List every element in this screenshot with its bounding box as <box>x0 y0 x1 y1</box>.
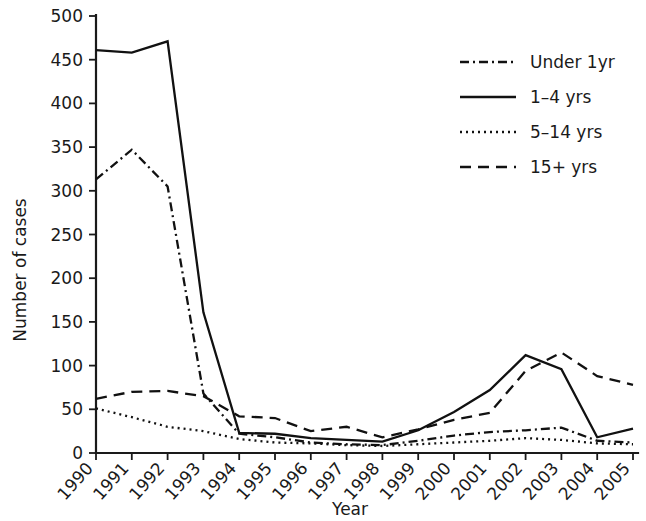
y-tick-label: 400 <box>51 93 83 113</box>
y-tick-label: 250 <box>51 225 83 245</box>
legend-label-0: Under 1yr <box>530 52 615 72</box>
legend-label-3: 15+ yrs <box>530 157 597 177</box>
legend-label-1: 1–4 yrs <box>530 87 592 107</box>
y-tick-label: 150 <box>51 312 83 332</box>
x-axis-title: Year <box>331 499 368 519</box>
y-tick-label: 100 <box>51 356 83 376</box>
y-tick-label: 300 <box>51 181 83 201</box>
y-tick-label: 450 <box>51 50 83 70</box>
y-tick-label: 200 <box>51 268 83 288</box>
y-tick-label: 500 <box>51 6 83 26</box>
y-tick-label: 350 <box>51 137 83 157</box>
y-axis-title: Number of cases <box>10 198 30 342</box>
legend-label-2: 5–14 yrs <box>530 122 602 142</box>
y-tick-label: 50 <box>61 399 83 419</box>
line-chart: 050100150200250300350400450500 199019911… <box>0 0 646 521</box>
chart-canvas: 050100150200250300350400450500 199019911… <box>0 0 646 521</box>
